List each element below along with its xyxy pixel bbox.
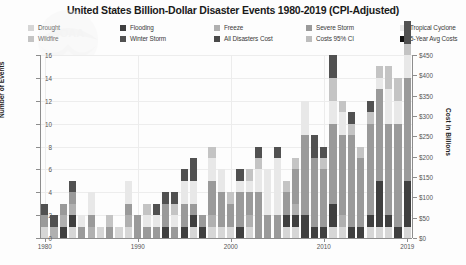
bar-segment-severe-storm xyxy=(60,204,67,215)
legend-swatch-icon xyxy=(120,36,126,42)
bar-segment-drought xyxy=(385,227,392,238)
bar-segment-tropical-cyclone xyxy=(78,215,85,226)
right-tick-mark xyxy=(413,177,417,178)
x-tick-mark xyxy=(138,239,139,242)
bar-1992[interactable] xyxy=(153,204,160,238)
bar-segment-drought xyxy=(69,227,76,238)
bar-segment-severe-storm xyxy=(171,227,178,238)
bar-2002[interactable] xyxy=(246,169,253,238)
bar-segment-flooding xyxy=(348,227,355,238)
bar-2001[interactable] xyxy=(236,169,243,238)
bar-2013[interactable] xyxy=(348,112,355,238)
bar-2017[interactable] xyxy=(385,66,392,238)
gridline-horizontal xyxy=(40,101,412,102)
bar-segment-severe-storm xyxy=(134,215,141,238)
bar-1991[interactable] xyxy=(143,204,150,238)
bar-segment-winter-storm xyxy=(190,158,197,181)
gridline-horizontal xyxy=(40,215,412,216)
gridline-horizontal xyxy=(40,169,412,170)
x-tick-mark xyxy=(45,239,46,242)
bar-2004[interactable] xyxy=(264,169,271,238)
legend-item-severe-storm[interactable]: Severe Storm xyxy=(306,24,354,31)
right-tick-mark xyxy=(413,238,417,239)
bar-segment-freeze xyxy=(69,204,76,215)
bar-1985[interactable] xyxy=(88,192,95,238)
left-tick-label: 10 xyxy=(45,120,52,127)
bar-1994[interactable] xyxy=(171,192,178,238)
chart-root: United States Billion-Dollar Disaster Ev… xyxy=(0,0,466,265)
right-tick-label: $50 xyxy=(419,214,430,221)
bar-2011[interactable] xyxy=(329,55,336,238)
legend-item-freeze[interactable]: Freeze xyxy=(214,24,243,31)
gridline-horizontal xyxy=(40,147,412,148)
bar-1997[interactable] xyxy=(199,215,206,238)
legend-swatch-icon xyxy=(214,25,220,31)
bar-segment-winter-storm xyxy=(181,169,188,180)
bar-segment-severe-storm xyxy=(78,227,85,238)
bar-segment-flooding xyxy=(162,227,169,238)
bar-segment-flooding xyxy=(404,181,411,227)
bar-segment-wildfire xyxy=(376,66,383,77)
legend-item-flooding[interactable]: Flooding xyxy=(120,24,154,31)
legend-label: All Disasters Cost xyxy=(224,35,273,42)
gridline-horizontal xyxy=(40,124,412,125)
bar-segment-flooding xyxy=(385,215,392,226)
legend-item-all-disasters-cost[interactable]: All Disasters Cost xyxy=(214,35,273,42)
bar-1982[interactable] xyxy=(60,204,67,238)
bar-2019[interactable] xyxy=(404,21,411,238)
bar-segment-tropical-cyclone xyxy=(153,215,160,226)
bar-2005[interactable] xyxy=(274,147,281,239)
bar-1980[interactable] xyxy=(41,204,48,238)
bar-1995[interactable] xyxy=(181,169,188,238)
bar-segment-wildfire xyxy=(367,112,374,123)
legend-item-costs-95-ci[interactable]: Costs 95% CI xyxy=(306,35,354,42)
bar-segment-winter-storm xyxy=(404,21,411,44)
right-tick-mark xyxy=(413,157,417,158)
bottom-axis-line xyxy=(40,238,412,239)
bar-segment-drought xyxy=(97,227,104,238)
bar-1998[interactable] xyxy=(208,147,215,239)
bar-segment-severe-storm xyxy=(320,169,327,226)
left-tick-label: 8 xyxy=(48,143,52,150)
bar-2012[interactable] xyxy=(339,101,346,238)
bar-1989[interactable] xyxy=(125,181,132,238)
bar-2000[interactable] xyxy=(227,192,234,238)
bar-segment-tropical-cyclone xyxy=(404,55,411,78)
bar-segment-flooding xyxy=(311,227,318,238)
bar-segment-tropical-cyclone xyxy=(88,192,95,215)
bar-segment-wildfire xyxy=(227,192,234,203)
bar-segment-winter-storm xyxy=(153,204,160,215)
bar-segment-wildfire xyxy=(106,215,113,226)
bar-2008[interactable] xyxy=(301,101,308,238)
bar-segment-severe-storm xyxy=(143,227,150,238)
legend-item-winter-storm[interactable]: Winter Storm xyxy=(120,35,166,42)
bar-segment-severe-storm xyxy=(199,215,206,226)
bar-segment-tropical-cyclone xyxy=(190,181,197,204)
bar-segment-flooding xyxy=(190,215,197,226)
right-tick-mark xyxy=(413,96,417,97)
bar-2010[interactable] xyxy=(320,147,327,239)
bar-1988[interactable] xyxy=(115,227,122,238)
bar-segment-tropical-cyclone xyxy=(339,112,346,135)
bar-2016[interactable] xyxy=(376,66,383,238)
bar-1993[interactable] xyxy=(162,192,169,238)
right-axis-line xyxy=(412,55,413,238)
bar-segment-severe-storm xyxy=(264,215,271,238)
bar-segment-severe-storm xyxy=(311,158,318,227)
bar-1996[interactable] xyxy=(190,158,197,238)
bar-2003[interactable] xyxy=(255,147,262,239)
bar-1984[interactable] xyxy=(78,215,85,238)
bar-segment-tropical-cyclone xyxy=(125,181,132,204)
bar-2006[interactable] xyxy=(283,181,290,238)
bar-1986[interactable] xyxy=(97,227,104,238)
bar-1987[interactable] xyxy=(106,215,113,238)
bar-2018[interactable] xyxy=(394,78,401,238)
bar-1983[interactable] xyxy=(69,181,76,238)
bar-2007[interactable] xyxy=(292,158,299,238)
bar-2015[interactable] xyxy=(367,101,374,238)
bar-1990[interactable] xyxy=(134,215,141,238)
bar-1999[interactable] xyxy=(218,169,225,238)
right-axis-label: Cost in Billions xyxy=(445,108,452,156)
bar-2014[interactable] xyxy=(357,147,364,239)
bar-2009[interactable] xyxy=(311,135,318,238)
